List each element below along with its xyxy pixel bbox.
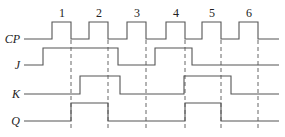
- label-j: J: [15, 58, 21, 72]
- waveform-q: [24, 103, 279, 121]
- waveform-cp: [24, 22, 279, 39]
- label-cp: CP: [5, 32, 21, 46]
- signal-labels: CPJKQ: [5, 32, 21, 128]
- waveforms: [24, 22, 279, 121]
- pulse-number-2: 2: [96, 6, 102, 20]
- pulse-number-5: 5: [209, 6, 215, 20]
- label-k: K: [11, 87, 21, 101]
- pulse-number-1: 1: [59, 6, 65, 20]
- waveform-j: [24, 48, 279, 65]
- label-q: Q: [11, 114, 20, 128]
- pulse-number-3: 3: [134, 6, 140, 20]
- pulse-numbers: 123456: [59, 6, 252, 20]
- clock-edge-dashed-lines: [71, 40, 258, 128]
- pulse-number-4: 4: [173, 6, 179, 20]
- waveform-k: [24, 76, 279, 94]
- pulse-number-6: 6: [246, 6, 252, 20]
- timing-diagram: CPJKQ 123456: [0, 0, 285, 137]
